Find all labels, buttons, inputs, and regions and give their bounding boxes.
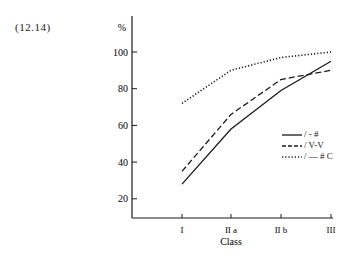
y-tick-label: 80 — [118, 83, 128, 94]
y-axis-label: % — [118, 22, 126, 33]
x-tick-label: I — [181, 225, 184, 235]
x-tick-label: III — [327, 225, 336, 235]
legend-label: / V-V — [304, 140, 324, 151]
chart-legend: / - #/ V-V/ — # C — [282, 129, 333, 162]
legend-item: / V-V — [282, 140, 333, 151]
y-tick-label: 100 — [113, 47, 128, 58]
x-tick-label: II b — [275, 225, 288, 235]
legend-label: / — # C — [304, 151, 333, 162]
series-line-solid — [182, 61, 331, 184]
x-tick-label: II a — [225, 225, 237, 235]
legend-item: / — # C — [282, 151, 333, 162]
legend-item: / - # — [282, 129, 333, 140]
legend-label: / - # — [304, 129, 319, 140]
legend-line-dotted-icon — [282, 153, 302, 161]
y-tick-label: 20 — [118, 193, 128, 204]
y-tick-label: 60 — [118, 120, 128, 131]
chart-axes: 20406080100III aII bIII — [113, 16, 336, 235]
x-axis-label: Class — [220, 236, 242, 247]
legend-line-dashed-icon — [282, 142, 302, 150]
y-tick-label: 40 — [118, 157, 128, 168]
legend-line-solid-icon — [282, 131, 302, 139]
series-line-dotted — [182, 52, 331, 103]
chart-series — [182, 52, 331, 184]
